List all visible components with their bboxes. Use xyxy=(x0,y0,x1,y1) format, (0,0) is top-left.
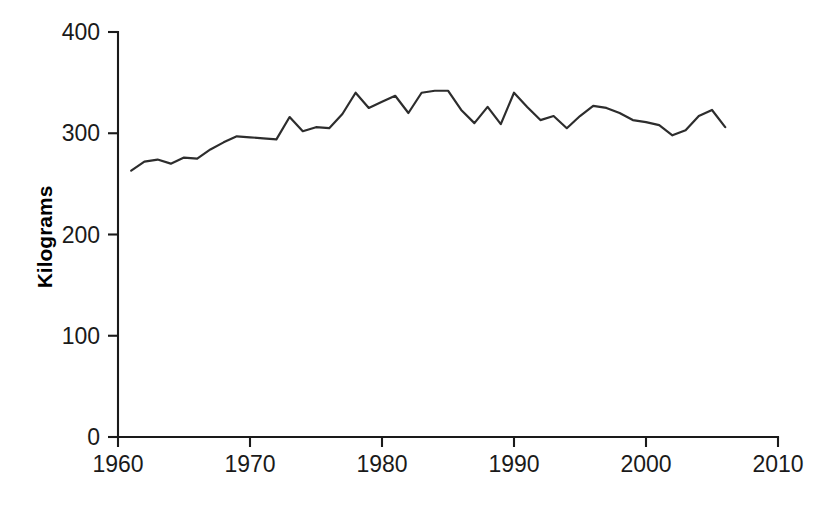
y-tick-label-0: 0 xyxy=(87,424,100,450)
x-tick-label-1980: 1980 xyxy=(356,451,407,477)
line-chart: 0 100 200 300 400 1960 1970 1980 1990 20… xyxy=(0,0,826,509)
y-axis-ticks xyxy=(108,32,118,437)
y-tick-label-400: 400 xyxy=(62,19,100,45)
x-axis-ticks xyxy=(118,437,778,447)
y-tick-label-200: 200 xyxy=(62,222,100,248)
x-tick-label-1970: 1970 xyxy=(224,451,275,477)
x-tick-label-1990: 1990 xyxy=(488,451,539,477)
y-axis-title: Kilograms xyxy=(33,186,56,289)
x-tick-label-2000: 2000 xyxy=(620,451,671,477)
y-tick-label-300: 300 xyxy=(62,120,100,146)
y-tick-label-100: 100 xyxy=(62,323,100,349)
data-line-kilograms xyxy=(131,91,725,171)
x-tick-label-1960: 1960 xyxy=(92,451,143,477)
chart-figure: 0 100 200 300 400 1960 1970 1980 1990 20… xyxy=(0,0,826,509)
x-tick-label-2010: 2010 xyxy=(752,451,803,477)
